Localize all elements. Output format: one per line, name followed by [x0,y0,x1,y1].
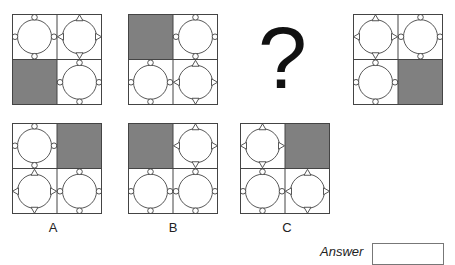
triangle-icon [392,33,398,40]
answer-input-box[interactable] [372,243,444,265]
option-a-label: A [43,220,63,235]
option-b-figure[interactable] [128,123,218,214]
triangle-icon [241,142,247,149]
cell-triangles [354,15,398,59]
small-circle-icon [193,14,199,20]
small-circle-icon [77,99,83,105]
big-circle-icon [359,20,393,54]
small-circle-icon [260,208,266,214]
small-circle-icon [148,169,154,175]
triangle-icon [304,207,311,213]
cell-triangles [58,15,102,59]
cell-circles [128,169,173,214]
small-circle-icon [77,60,83,66]
triangle-icon [96,33,102,40]
small-circle-icon [128,79,134,85]
cell-circles [57,169,102,214]
small-circle-icon [32,14,38,20]
option-c-label: C [277,220,297,235]
big-circle-icon [359,65,393,99]
big-circle-icon [179,174,213,208]
triangle-icon [192,124,199,130]
small-circle-icon [32,123,38,129]
small-circle-icon [353,79,359,85]
small-circle-icon [240,188,246,194]
small-circle-icon [51,143,57,149]
triangle-icon [304,169,311,175]
option-a-figure[interactable] [12,123,102,214]
big-circle-icon [18,20,52,54]
triangle-icon [259,124,266,130]
small-circle-icon [148,99,154,105]
cell-gray [12,60,57,106]
big-circle-icon [291,174,325,208]
triangle-icon [31,169,38,175]
small-circle-icon [148,208,154,214]
missing-item-question-mark: ? [258,16,306,100]
sequence-item-2 [128,14,218,105]
small-circle-icon [128,188,134,194]
small-circle-icon [173,188,179,194]
triangle-icon [324,188,330,195]
cell-gray [57,123,102,169]
big-circle-icon [179,20,213,54]
small-circle-icon [279,188,285,194]
big-circle-icon [63,65,97,99]
option-c-figure[interactable] [240,123,330,214]
small-circle-icon [212,188,218,194]
cell-circles [12,123,57,168]
cell-circles [128,60,173,105]
small-circle-icon [51,34,57,40]
cell-triangles [174,124,218,168]
triangle-icon [174,79,180,86]
triangle-icon [174,142,180,149]
cell-circles [173,169,218,214]
small-circle-icon [57,79,63,85]
small-circle-icon [418,53,424,59]
big-circle-icon [18,129,52,163]
triangle-icon [192,98,199,104]
big-circle-icon [134,174,168,208]
big-circle-icon [246,174,280,208]
triangle-icon [354,33,360,40]
cell-circles [398,14,443,59]
cell-circles [57,60,102,105]
small-circle-icon [418,14,424,20]
cell-triangles [174,60,218,104]
big-circle-icon [179,129,213,163]
cell-gray [285,123,330,169]
triangle-icon [279,142,285,149]
triangle-icon [212,142,218,149]
small-circle-icon [193,53,199,59]
triangle-icon [31,207,38,213]
big-circle-icon [404,20,438,54]
small-circle-icon [77,169,83,175]
small-circle-icon [148,60,154,66]
answer-label: Answer [320,244,363,259]
small-circle-icon [32,53,38,59]
cell-circles [240,169,285,214]
small-circle-icon [260,169,266,175]
triangle-icon [212,79,218,86]
cell-gray [398,60,443,106]
triangle-icon [51,188,57,195]
cell-gray [128,123,173,169]
big-circle-icon [246,129,280,163]
small-circle-icon [96,79,102,85]
triangle-icon [192,162,199,168]
triangle-icon [13,188,19,195]
cell-triangles [286,169,330,213]
small-circle-icon [437,34,443,40]
small-circle-icon [167,188,173,194]
sequence-item-1 [12,14,102,105]
cell-circles [173,14,218,59]
small-circle-icon [96,188,102,194]
big-circle-icon [134,65,168,99]
cell-triangles [241,124,285,168]
small-circle-icon [392,79,398,85]
cell-gray [128,14,173,60]
small-circle-icon [12,34,18,40]
small-circle-icon [77,208,83,214]
big-circle-icon [63,174,97,208]
big-circle-icon [63,20,97,54]
